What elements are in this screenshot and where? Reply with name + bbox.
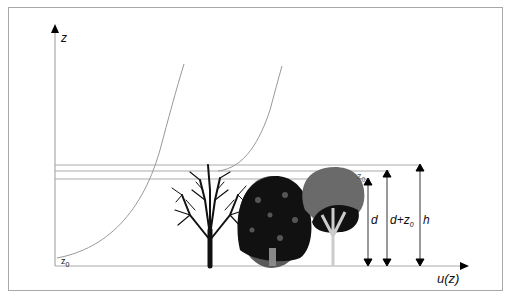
dense-tree-icon [237, 176, 311, 268]
grey-crown-tree-icon [302, 167, 364, 266]
u-axis-label: u(z) [437, 271, 459, 286]
profile-curve-bare [57, 64, 184, 258]
wind-profile-diagram [0, 0, 512, 304]
z0-top-label: z0 [357, 171, 365, 183]
z0-bottom-label: z0 [61, 256, 69, 268]
z-axis-label: z [61, 31, 67, 45]
z-axis-arrow-icon [51, 24, 59, 33]
d-plus-z0-label: d+z0 [390, 213, 414, 228]
bare-tree-icon [172, 165, 246, 266]
u-axis-arrow-icon [460, 262, 469, 270]
d-label: d [371, 213, 378, 227]
h-label: h [423, 213, 430, 227]
profile-curve-canopy [218, 66, 282, 171]
